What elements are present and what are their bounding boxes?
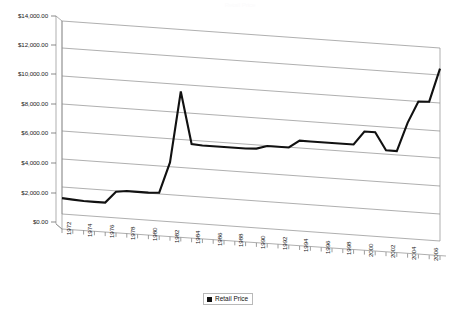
chart-legend: Retail Price <box>203 293 253 305</box>
x-tick-label: 1982 <box>173 229 180 242</box>
x-tick-label: 1992 <box>281 237 288 250</box>
x-tick-label: 1998 <box>345 242 352 255</box>
x-tick-label: 1986 <box>216 232 223 245</box>
x-tick-label: 1978 <box>129 226 136 239</box>
gridlines <box>62 21 440 241</box>
x-tick-label: 1994 <box>302 239 309 252</box>
chart-container: Retail Price <box>0 0 467 315</box>
x-tick-label: 2004 <box>410 246 417 259</box>
y-tick-label: $8,000.00 <box>2 100 48 107</box>
legend-swatch-icon <box>207 297 212 302</box>
x-tick-label: 2002 <box>389 245 396 258</box>
x-tick-label: 1972 <box>65 222 72 235</box>
x-tick-label: 1988 <box>237 234 244 247</box>
gridline-0 <box>62 214 440 241</box>
gridline-14000 <box>62 21 440 48</box>
x-tick-label: 2006 <box>432 248 439 261</box>
x-tick-label: 1996 <box>324 240 331 253</box>
y-tick-label: $2,000.00 <box>2 189 48 196</box>
x-axis-ticks <box>62 229 440 260</box>
x-tick-label: 1984 <box>194 231 201 244</box>
gridline-8000 <box>62 104 440 131</box>
chart-plot-area <box>0 0 467 315</box>
x-tick-label: 1976 <box>108 225 115 238</box>
y-tick-label: $6,000.00 <box>2 129 48 136</box>
x-tick-label: 1974 <box>86 223 93 236</box>
y-tick-label: $0.00 <box>2 218 48 225</box>
gridline-10000 <box>62 76 440 103</box>
x-tick-label: 1990 <box>259 236 266 249</box>
x-tick-label: 2000 <box>367 243 374 256</box>
series-line-retail-price <box>62 69 440 203</box>
gridline-4000 <box>62 159 440 186</box>
axis-wall <box>56 16 62 229</box>
y-tick-label: $12,000.00 <box>2 41 48 48</box>
y-axis-ticks <box>51 16 56 222</box>
y-tick-label: $14,000.00 <box>2 12 48 19</box>
y-tick-label: $4,000.00 <box>2 159 48 166</box>
y-tick-label: $10,000.00 <box>2 70 48 77</box>
x-tick-label: 1980 <box>151 228 158 241</box>
x-axis-origin-edge <box>56 224 62 229</box>
gridline-12000 <box>62 48 440 75</box>
legend-label: Retail Price <box>215 295 248 303</box>
